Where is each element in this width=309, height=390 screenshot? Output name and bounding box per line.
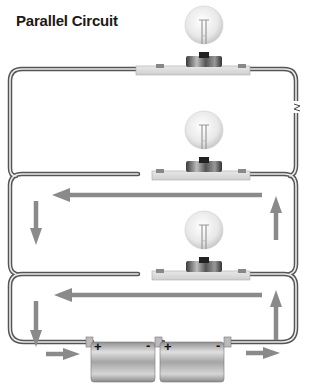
parallel-circuit-diagram [0, 0, 309, 390]
battery-2-negative-label: - [216, 338, 220, 353]
battery-2-positive-label: + [164, 339, 172, 354]
terminal-screw-icon [156, 269, 164, 273]
arrow-left-icon [52, 188, 262, 202]
arrow-up-icon [270, 290, 282, 340]
wire-break-icon [293, 101, 300, 113]
arrow-right-icon [246, 347, 280, 359]
battery-1-positive-label: + [94, 339, 102, 354]
bulb-1 [136, 6, 250, 75]
terminal-screw-icon [156, 169, 164, 173]
arrow-left-icon [54, 288, 262, 302]
terminal-screw-icon [238, 269, 246, 273]
wires [10, 69, 296, 342]
terminal-screw-icon [156, 64, 164, 68]
bulb-2 [152, 111, 250, 180]
terminal-screw-icon [238, 64, 246, 68]
arrow-up-icon [270, 196, 282, 240]
bulb-3 [152, 211, 250, 280]
terminal-screw-icon [238, 169, 246, 173]
arrow-right-icon [46, 348, 80, 360]
arrow-down-icon [30, 201, 42, 245]
battery-1-negative-label: - [146, 338, 150, 353]
